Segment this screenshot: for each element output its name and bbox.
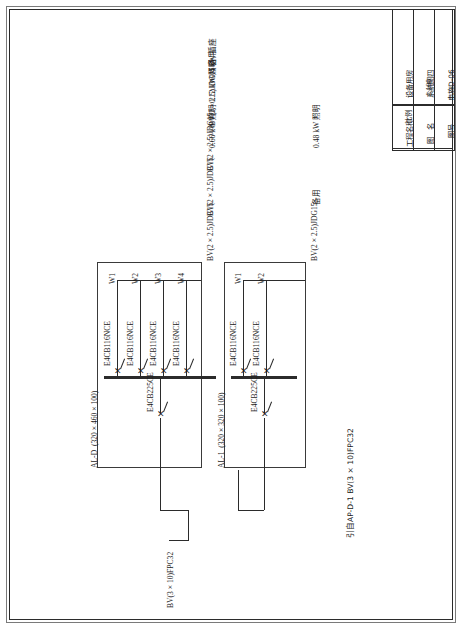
title-block-value-scale: 1:100	[413, 60, 435, 100]
circuit-line-al-1-w2	[266, 280, 267, 376]
circuit-line-al-d-w3	[163, 280, 164, 376]
main-feeder-drop-al-1	[264, 418, 265, 510]
circuit-id-al-d-w1: W1	[108, 273, 117, 284]
breaker-label-al-1-w2: E4CB116NCE	[252, 321, 261, 366]
circuit-id-al-1-w1: W1	[234, 273, 243, 284]
incoming-riser-al-d	[188, 510, 189, 540]
circuit-line-al-d-w2	[140, 280, 141, 376]
main-feeder-line-al-d	[160, 379, 161, 413]
main-feeder-drop-al-d	[160, 418, 161, 510]
breaker-label-al-1-w1: E4CB116NCE	[229, 321, 238, 366]
breaker-label-al-d-w4: E4CB116NCE	[172, 321, 181, 366]
incoming-run-al-d	[169, 540, 189, 541]
panel-tag-al-d: AL-D (320 × 460 × 100)	[90, 391, 99, 468]
incoming-riser-al-1	[238, 470, 239, 510]
title-block-value-drawing-no: 电施D-06	[434, 9, 455, 105]
main-feeder-line-al-1	[264, 379, 265, 413]
cable-label-al-1-w1: BV(2 × 2.5)JDG15	[310, 203, 319, 262]
breaker-label-al-d-w3: E4CB116NCE	[149, 321, 158, 366]
circuit-id-al-1-w2: W2	[257, 273, 266, 284]
incoming-cable-label-al-1: 引自AP-D-1 BV(3 × 10)FPC32	[344, 428, 355, 538]
circuit-id-al-d-w4: W4	[177, 273, 186, 284]
circuit-line-al-1-w1	[243, 280, 244, 376]
title-block-label-scale: 比例	[392, 96, 414, 149]
main-breaker-label-al-d: E4CB225CE	[146, 372, 155, 412]
circuit-run-al-1-w2	[266, 280, 305, 281]
breaker-label-al-d-w2: E4CB116NCE	[126, 321, 135, 366]
load-label-al-1-w1: 0.48 kW 照明	[310, 104, 321, 148]
title-block-value-project: 设备用房	[392, 9, 414, 105]
panel-tag-al-1: AL-1 (320 × 320 × 100)	[217, 392, 226, 468]
drawing-sheet: 设备用房 系统图四 电施D-06 工程名称 图 名 图号 比例 1:100	[0, 0, 464, 631]
load-label-al-1-w2: 备用	[310, 189, 321, 205]
incoming-cable-label-al-d: BV(3 × 10)FPC32	[166, 552, 175, 608]
main-breaker-label-al-1: E4CB225CE	[250, 372, 259, 412]
main-feeder-run-al-d	[160, 510, 188, 511]
breaker-label-al-d-w1: E4CB116NCE	[103, 321, 112, 366]
circuit-id-al-d-w2: W2	[131, 273, 140, 284]
main-feeder-run-al-1	[238, 510, 264, 511]
cable-label-al-d-w4: BV(2 × 2.5)JDG15 备用	[206, 50, 217, 126]
circuit-id-al-d-w3: W3	[154, 273, 163, 284]
circuit-line-al-d-w1	[117, 280, 118, 376]
circuit-line-al-d-w4	[186, 280, 187, 376]
title-block-label-drawing-no: 图号	[434, 105, 455, 151]
circuit-run-al-d-w4	[186, 280, 201, 281]
